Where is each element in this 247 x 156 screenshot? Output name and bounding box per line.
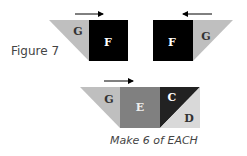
piece-g-triangle [80,87,120,128]
label-c: C [168,91,177,104]
quilt-diagram: G F F G G E C D [0,0,247,156]
label-g: G [104,93,113,106]
label-f: F [168,36,176,49]
label-g: G [73,25,82,38]
instruction-note: Make 6 of EACH [110,134,198,147]
label-g: G [201,30,210,43]
label-d: D [184,112,194,125]
piece-g-triangle [193,20,233,61]
unit-1: G F [49,14,128,61]
unit-3: G E C D [80,81,200,128]
piece-g-triangle [49,20,89,61]
label-f: F [104,36,112,49]
unit-2: F G [153,14,233,61]
label-e: E [136,101,144,114]
